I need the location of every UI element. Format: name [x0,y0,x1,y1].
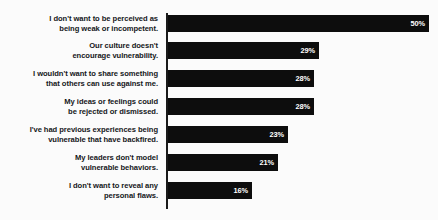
bar-row: My leaders don't model vulnerable behavi… [0,154,438,171]
bar-row: My ideas or feelings could be rejected o… [0,98,438,115]
category-label: Our culture doesn't encourage vulnerabil… [0,41,162,59]
category-label: I wouldn't want to share something that … [0,69,162,87]
bar-row: I don't want to reveal any personal flaw… [0,182,438,199]
category-label: My leaders don't model vulnerable behavi… [0,153,162,171]
bar-row: Our culture doesn't encourage vulnerabil… [0,42,438,59]
bar-value-label: 28% [296,75,311,82]
bar: 23% [168,126,288,143]
bar-track: 29% [168,42,319,59]
bar-track: 28% [168,98,314,115]
bar-row: I've had previous experiences being vuln… [0,126,438,143]
bar-value-label: 50% [411,20,426,27]
category-label: I don't want to reveal any personal flaw… [0,181,162,199]
bar: 21% [168,154,278,171]
bar-track: 28% [168,70,314,87]
bar-row: I wouldn't want to share something that … [0,70,438,87]
bar-value-label: 16% [234,187,249,194]
bar: 28% [168,98,314,115]
bar-value-label: 29% [301,47,316,54]
bar-track: 23% [168,126,288,143]
category-label: My ideas or feelings could be rejected o… [0,97,162,115]
category-label: I don't want to be perceived as being we… [0,14,162,32]
bar: 16% [168,182,252,199]
bar-value-label: 28% [296,103,311,110]
bar: 28% [168,70,314,87]
bar-track: 16% [168,182,252,199]
bar-value-label: 21% [260,159,275,166]
bar: 29% [168,42,319,59]
bar-row: I don't want to be perceived as being we… [0,15,438,32]
category-label: I've had previous experiences being vuln… [0,125,162,143]
horizontal-bar-chart: I don't want to be perceived as being we… [0,0,438,220]
bar-track: 21% [168,154,278,171]
bar: 50% [168,15,429,32]
bar-track: 50% [168,15,429,32]
bar-value-label: 23% [270,131,285,138]
